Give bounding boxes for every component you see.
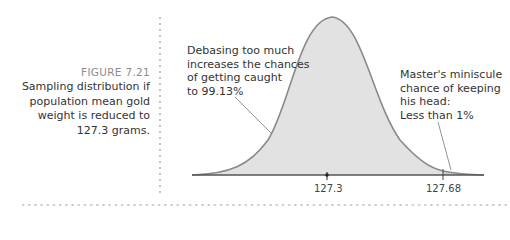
tick-label-mean: 127.3 <box>314 183 343 194</box>
annotation-line: his head: <box>400 95 502 109</box>
right-annotation-leader <box>438 122 451 170</box>
left-annotation-leader <box>235 97 272 134</box>
annotation-line: to 99.13% <box>187 85 309 99</box>
annotation-line: of getting caught <box>187 71 309 85</box>
mean-dot <box>325 173 329 177</box>
right-annotation: Master's miniscule chance of keeping his… <box>400 68 502 122</box>
annotation-line: Less than 1% <box>400 109 502 123</box>
annotation-line: Master's miniscule <box>400 68 502 82</box>
annotation-line: chance of keeping <box>400 82 502 96</box>
left-annotation: Debasing too much increases the chances … <box>187 44 309 98</box>
annotation-line: increases the chances <box>187 58 309 72</box>
tick-label-critical: 127.68 <box>426 183 461 194</box>
annotation-line: Debasing too much <box>187 44 309 58</box>
